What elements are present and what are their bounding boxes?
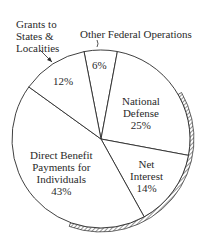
label-direct: Direct Benefit Payments for Individuals … — [30, 149, 93, 197]
label-other-pct: 6% — [92, 59, 107, 71]
label-defense: National Defense 25% — [122, 95, 160, 131]
grants-line3: Localities — [16, 42, 59, 54]
label-other: Other Federal Operations — [80, 28, 192, 40]
label-grants-pct: 12% — [53, 75, 73, 87]
label-interest: Net Interest 14% — [130, 158, 163, 194]
defense-pct: 25% — [122, 119, 160, 131]
direct-pct: 43% — [30, 185, 93, 197]
direct-line3: Individuals — [30, 173, 93, 185]
interest-line2: Interest — [130, 170, 163, 182]
label-grants: Grants to States & Localities — [16, 18, 59, 54]
other-pointer — [97, 40, 98, 47]
grants-line2: States & — [16, 30, 59, 42]
grants-line1: Grants to — [16, 18, 59, 30]
defense-line2: Defense — [122, 107, 160, 119]
defense-line1: National — [122, 95, 160, 107]
interest-line1: Net — [130, 158, 163, 170]
pie-slices — [12, 50, 190, 228]
interest-pct: 14% — [130, 182, 163, 194]
direct-line2: Payments for — [30, 161, 93, 173]
direct-line1: Direct Benefit — [30, 149, 93, 161]
